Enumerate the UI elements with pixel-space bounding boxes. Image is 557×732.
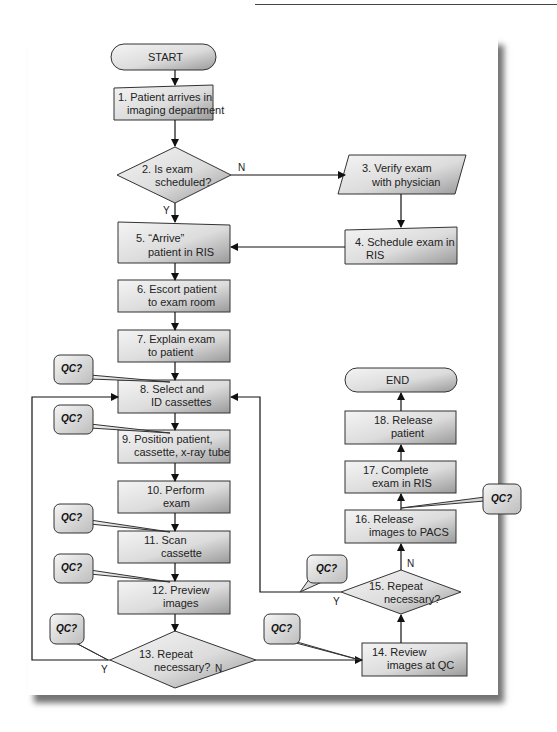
step-9-line2: cassette, x-ray tube	[134, 446, 230, 459]
step-1-line1: 1. Patient arrives in	[118, 91, 212, 104]
end-label: END	[386, 374, 409, 387]
branch-label-15-yes: Y	[333, 596, 340, 607]
step-18-line2: patient	[391, 427, 424, 440]
qc-label-step-8: QC?	[61, 363, 82, 374]
step-14-line1: 14. Review	[372, 646, 426, 659]
step-16-line1: 16. Release	[355, 513, 414, 526]
qc-label-step-15: QC?	[316, 563, 337, 574]
step-15-line2: necessary?	[384, 593, 440, 606]
step-12-line2: images	[163, 597, 198, 610]
step-7-line2: to patient	[148, 346, 193, 359]
step-5-line1: 5. “Arrive”	[136, 232, 184, 245]
branch-label-2-yes: Y	[163, 205, 170, 216]
step-13-line2: necessary?	[154, 661, 210, 674]
step-6-line2: to exam room	[148, 296, 215, 309]
step-9-line1: 9. Position patient,	[122, 433, 213, 446]
start-label: START	[148, 51, 183, 64]
step-2-line1: 2. Is exam	[142, 163, 193, 176]
step-7-line1: 7. Explain exam	[137, 333, 215, 346]
step-3-line2: with physician	[372, 176, 440, 189]
step-15-line1: 15. Repeat	[369, 580, 423, 593]
step-11-line1: 11. Scan	[144, 534, 187, 547]
step-11-line2: cassette	[161, 547, 202, 560]
step-1-line2: imaging department	[127, 104, 224, 117]
step-18-line1: 18. Release	[374, 414, 433, 427]
step-17-line1: 17. Complete	[363, 464, 428, 477]
step-10-line1: 10. Perform	[147, 484, 204, 497]
qc-label-step-14: QC?	[271, 623, 292, 634]
qc-label-step-12: QC?	[61, 562, 82, 573]
qc-label-step-13: QC?	[56, 623, 77, 634]
branch-label-2-no: N	[238, 162, 245, 173]
step-12-line1: 12. Preview	[152, 584, 209, 597]
qc-label-step-11: QC?	[61, 512, 82, 523]
step-4-line1: 4. Schedule exam in	[355, 236, 455, 249]
step-10-line2: exam	[163, 497, 190, 510]
step-6-line1: 6. Escort patient	[137, 283, 217, 296]
step-8-line2: ID cassettes	[151, 396, 212, 409]
qc-label-step-9: QC?	[61, 413, 82, 424]
qc-callout-step-13	[50, 614, 108, 660]
qc-callout-step-14	[264, 614, 360, 660]
step-8-line1: 8. Select and	[140, 383, 204, 396]
step-13-line1: 13. Repeat	[139, 648, 193, 661]
step-17-line2: exam in RIS	[372, 477, 432, 490]
step-5-line2: patient in RIS	[148, 246, 214, 259]
branch-label-13-yes: Y	[101, 664, 108, 675]
qc-label-step-16: QC?	[491, 493, 512, 504]
branch-label-15-no: N	[407, 558, 414, 569]
step-2-line2: scheduled?	[155, 176, 211, 189]
step-4-line2: RIS	[366, 249, 384, 262]
step-14-line2: images at QC	[387, 659, 454, 672]
step-16-line2: images to PACS	[369, 526, 449, 539]
branch-label-13-no: N	[215, 663, 222, 674]
step-3-line1: 3. Verify exam	[362, 162, 432, 175]
